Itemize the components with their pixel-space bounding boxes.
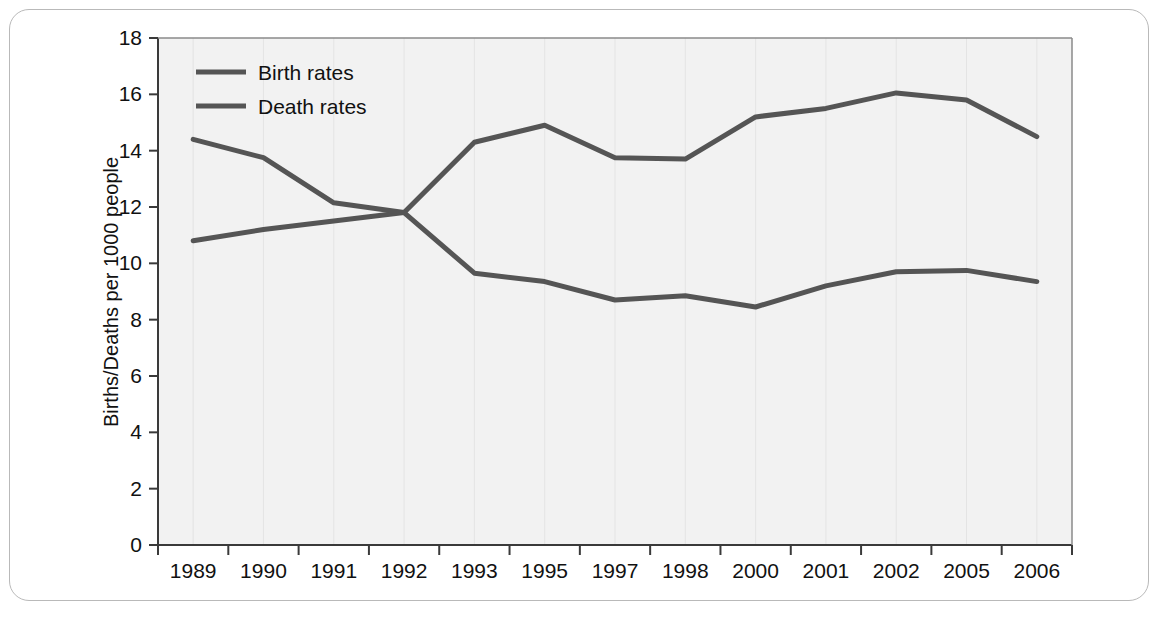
x-tick-label: 2000 [732, 559, 779, 582]
x-tick-label: 1997 [592, 559, 639, 582]
legend-label-birth-rates: Birth rates [258, 61, 354, 84]
y-tick-label: 14 [119, 139, 143, 162]
x-tick-label: 1995 [521, 559, 568, 582]
y-tick-label: 16 [119, 82, 142, 105]
x-tick-label: 1990 [240, 559, 287, 582]
x-tick-label: 1998 [662, 559, 709, 582]
y-tick-label: 8 [130, 308, 142, 331]
y-tick-label: 6 [130, 364, 142, 387]
y-tick-label: 12 [119, 195, 142, 218]
y-tick-label: 2 [130, 477, 142, 500]
y-tick-label: 0 [130, 533, 142, 556]
x-tick-label: 1991 [310, 559, 357, 582]
x-tick-label: 1992 [381, 559, 428, 582]
x-tick-label: 2002 [873, 559, 920, 582]
page-root: 024681012141618 198919901991199219931995… [0, 0, 1167, 619]
x-tick-label: 1993 [451, 559, 498, 582]
y-axis-title: Births/Deaths per 1000 people [100, 157, 122, 427]
chart-svg: 024681012141618 198919901991199219931995… [0, 0, 1167, 619]
legend-label-death-rates: Death rates [258, 95, 367, 118]
line-chart: 024681012141618 198919901991199219931995… [0, 0, 1167, 619]
y-tick-label: 4 [130, 420, 142, 443]
y-axis-ticks: 024681012141618 [119, 26, 158, 556]
x-tick-label: 1989 [170, 559, 217, 582]
x-tick-label: 2005 [943, 559, 990, 582]
x-axis-ticks: 1989199019911992199319951997199820002001… [158, 545, 1072, 582]
y-tick-label: 18 [119, 26, 142, 49]
x-tick-label: 2006 [1013, 559, 1060, 582]
y-tick-label: 10 [119, 251, 142, 274]
x-tick-label: 2001 [803, 559, 850, 582]
